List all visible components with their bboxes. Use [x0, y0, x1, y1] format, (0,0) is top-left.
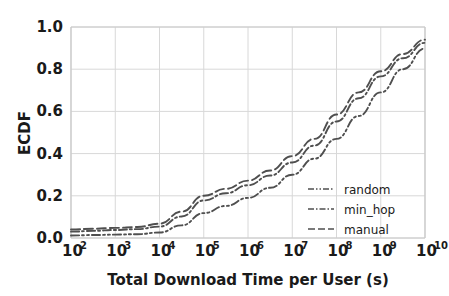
x-tick-exponent-4: 6 [257, 240, 264, 251]
y-tick-0: 0.0 [36, 229, 63, 247]
ecdf-chart-figure: 1021031041051061071081091010 0.00.20.40.… [0, 0, 449, 296]
y-tick-5: 1.0 [36, 18, 63, 36]
x-tick-exponent-7: 9 [390, 240, 397, 251]
x-tick-exponent-6: 8 [346, 240, 353, 251]
legend-label-random: random [344, 183, 391, 197]
y-axis-title: ECDF [16, 111, 34, 155]
legend-label-manual: manual [344, 223, 389, 237]
x-tick-exponent-5: 7 [301, 240, 308, 251]
x-axis-tick-labels: 1021031041051061071081091010 [62, 240, 448, 260]
legend-label-min_hop: min_hop [344, 203, 395, 217]
chart-canvas: 1021031041051061071081091010 0.00.20.40.… [0, 0, 449, 296]
x-tick-exponent-3: 5 [213, 240, 220, 251]
x-tick-exponent-1: 3 [124, 240, 131, 251]
y-tick-1: 0.2 [36, 187, 63, 205]
x-axis-title: Total Download Time per User (s) [107, 271, 389, 289]
y-tick-3: 0.6 [36, 102, 63, 120]
x-tick-exponent-2: 4 [169, 240, 176, 251]
x-tick-exponent-0: 2 [80, 240, 87, 251]
x-tick-exponent-8: 10 [434, 240, 448, 251]
y-tick-2: 0.4 [36, 145, 63, 163]
y-tick-4: 0.8 [36, 60, 63, 78]
